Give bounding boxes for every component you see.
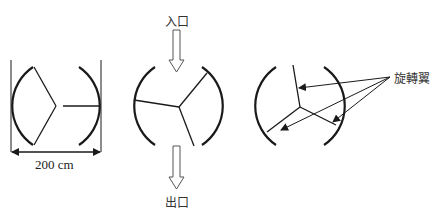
callout-arrow-2 — [281, 77, 390, 130]
rotor-blades-label: 旋轉翼 — [394, 69, 430, 86]
callout-arrow-3 — [333, 77, 390, 122]
diagram-canvas — [0, 0, 446, 215]
dimension-label: 200 cm — [35, 157, 74, 173]
rotor-panel-3 — [255, 65, 390, 145]
outlet-label: 出口 — [165, 193, 189, 210]
inlet-arrow-icon — [169, 30, 184, 72]
inlet-label: 入口 — [165, 12, 189, 29]
rotor-panel-2 — [134, 30, 223, 189]
rotor-panel-1 — [11, 60, 101, 152]
outlet-arrow-icon — [169, 146, 184, 189]
callout-arrow-1 — [299, 77, 390, 88]
